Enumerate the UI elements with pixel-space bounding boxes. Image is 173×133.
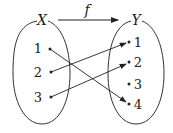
domain-element: 1 [34,41,42,56]
function-label: f [83,2,92,18]
domain-label: X [36,12,48,28]
domain-element: 2 [34,65,42,80]
codomain-element: 1 [134,35,142,50]
mapping-arrows [50,43,126,102]
codomain-element: 3 [134,77,142,92]
domain-element: 3 [34,90,42,105]
function-arrow: f [58,2,118,20]
function-mapping-diagram: X 1 2 3 Y 1 2 3 4 f [0,0,173,133]
codomain-element: 2 [134,55,142,70]
codomain-element: 4 [134,97,142,112]
codomain-label: Y [131,12,142,28]
